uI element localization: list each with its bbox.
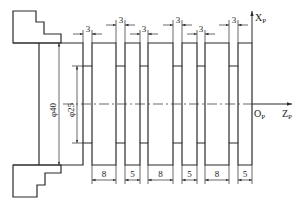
groove-width-label: 3	[142, 24, 147, 34]
outer-diameter-label: φ40	[48, 102, 58, 117]
chuck-jaw-bottom	[13, 165, 61, 197]
segment-width-label: 8	[158, 169, 163, 179]
segment-width-label: 5	[243, 169, 248, 179]
segment-width-label: 8	[102, 169, 107, 179]
groove-dimensions	[73, 20, 248, 43]
groove-width-label: 3	[86, 24, 91, 34]
origin-label: OP	[254, 108, 265, 121]
segment-dimensions	[92, 165, 252, 184]
x-axis-label: XP	[255, 12, 266, 25]
groove-width-label: 3	[176, 15, 181, 25]
groove-width-label: 3	[119, 15, 124, 25]
z-axis-label: ZP	[282, 108, 292, 121]
drawing-canvas: XP ZP OP φ40 φ25 3 3 3 3 3 3	[0, 0, 303, 205]
segment-width-label: 5	[187, 169, 192, 179]
chuck-jaw-top	[13, 11, 61, 43]
groove-width-label: 3	[232, 15, 237, 25]
part-drawing: XP ZP OP φ40 φ25 3 3 3 3 3 3	[0, 0, 303, 205]
segment-width-label: 5	[130, 169, 135, 179]
inner-diameter-label: φ25	[66, 102, 76, 117]
groove-width-label: 3	[199, 24, 204, 34]
segment-width-label: 8	[215, 169, 220, 179]
